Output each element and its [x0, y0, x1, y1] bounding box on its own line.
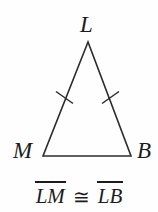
- segment-lb-label: LB: [97, 181, 124, 207]
- triangle-path: [43, 42, 131, 156]
- congruence-symbol: ≅: [72, 187, 91, 207]
- vertex-label-m: M: [13, 139, 32, 162]
- geometry-figure: L M B LM ≅ LB: [0, 0, 158, 212]
- segment-lm-label: LM: [35, 181, 66, 207]
- vertex-label-l: L: [80, 13, 93, 36]
- congruence-statement: LM ≅ LB: [0, 176, 158, 212]
- vertex-label-b: B: [137, 139, 151, 162]
- triangle-outline: [43, 42, 131, 156]
